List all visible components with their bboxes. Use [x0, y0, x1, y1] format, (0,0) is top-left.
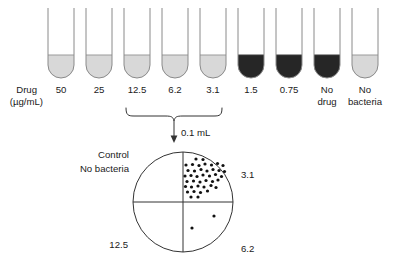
test-tube-7	[276, 8, 302, 78]
quadrant-label-upper-right: 3.1	[241, 169, 254, 180]
test-tube-2	[86, 8, 112, 78]
colony-dot	[189, 174, 192, 177]
colony-dot	[186, 190, 189, 193]
test-tube-5	[200, 8, 226, 78]
tube-label-9-line2: bacteria	[348, 96, 383, 107]
figure-broth-dilution-test: 0.1 mL Drug (µg/mL) Control No bacteria …	[0, 0, 410, 269]
test-tube-rack	[48, 8, 378, 78]
tube-label-6: 1.5	[244, 84, 257, 95]
colony-dot	[199, 191, 202, 194]
colony-dot	[206, 189, 209, 192]
tube-label-2: 25	[94, 84, 105, 95]
test-tube-4	[162, 8, 188, 78]
colony-dot	[196, 184, 199, 187]
colony-dot	[195, 175, 198, 178]
colony-dot	[202, 185, 205, 188]
colony-dot	[205, 169, 208, 172]
colony-dot	[209, 184, 212, 187]
colony-dot	[191, 163, 194, 166]
colony-dot	[201, 158, 204, 161]
colony-dot	[193, 169, 196, 172]
colony-dot	[183, 174, 186, 177]
tube-label-5: 3.1	[206, 84, 219, 95]
colony-dot	[216, 162, 219, 165]
colony-dot	[184, 163, 187, 166]
colony-dot	[216, 178, 219, 181]
transfer-volume-label: 0.1 mL	[181, 127, 211, 138]
colony-dot	[214, 173, 217, 176]
tube-label-9: No	[359, 84, 371, 95]
colony-dot	[211, 168, 214, 171]
colony-dot	[221, 164, 224, 167]
brace-path	[126, 108, 222, 121]
quadrant-label-upper-left-line1: Control	[98, 149, 129, 160]
colony-dot	[186, 169, 189, 172]
test-tube-6	[238, 8, 264, 78]
colony-dot	[214, 186, 217, 189]
drug-axis-label-line1: Drug	[16, 84, 37, 95]
colony-dot	[192, 190, 195, 193]
tube-label-4: 6.2	[168, 84, 181, 95]
test-tube-1	[48, 8, 74, 78]
colony-dot	[212, 214, 215, 217]
colony-dot	[184, 185, 187, 188]
colony-dot	[198, 180, 201, 183]
tube-label-8-line2: drug	[317, 96, 336, 107]
colony-dot	[223, 170, 226, 173]
colony-dot	[197, 164, 200, 167]
colony-dot	[199, 168, 202, 171]
colony-dot	[204, 179, 207, 182]
colony-dot	[190, 185, 193, 188]
tube-label-1: 50	[56, 84, 67, 95]
test-tube-9	[352, 8, 378, 78]
quadrant-label-lower-left: 12.5	[109, 239, 128, 250]
test-tube-3	[124, 8, 150, 78]
colony-dot	[190, 226, 193, 229]
test-tube-8	[314, 8, 340, 78]
quadrant-label-upper-left-line2: No bacteria	[80, 163, 130, 174]
figure-canvas: 0.1 mL Drug (µg/mL) Control No bacteria …	[0, 0, 410, 269]
colony-dot	[210, 163, 213, 166]
colony-dot	[189, 195, 192, 198]
colony-dot	[217, 169, 220, 172]
colony-dot	[208, 174, 211, 177]
tube-label-7: 0.75	[280, 84, 299, 95]
quadrant-label-lower-right: 6.2	[241, 243, 254, 254]
colony-dot	[194, 157, 197, 160]
colony-dot	[211, 180, 214, 183]
tube-label-3: 12.5	[128, 84, 147, 95]
colony-dot	[203, 162, 206, 165]
colony-dot	[201, 173, 204, 176]
colony-dot	[185, 180, 188, 183]
subculture-petri-plate	[133, 152, 233, 252]
colony-dot	[196, 195, 199, 198]
tube-label-8: No	[321, 84, 333, 95]
transfer-arrow-head	[171, 136, 178, 144]
colony-dot	[220, 175, 223, 178]
drug-axis-label-line2: (µg/mL)	[10, 96, 43, 107]
colony-dot	[192, 179, 195, 182]
